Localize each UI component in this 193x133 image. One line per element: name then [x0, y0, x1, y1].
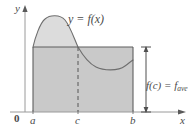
- origin-label: 0: [14, 113, 20, 124]
- y-axis-arrowhead: [22, 5, 27, 12]
- x-axis-label: x: [180, 115, 185, 126]
- average-value-label: f(c) = fave: [146, 80, 188, 92]
- x-tick-label-c: c: [75, 115, 80, 126]
- curve-equation-label: y = f(x): [68, 13, 104, 25]
- mean-value-theorem-figure: y = f(x) f(c) = fave y x 0 a c b: [0, 0, 193, 133]
- average-value-label-subscript: ave: [177, 84, 187, 93]
- average-value-label-main: f(c) = f: [146, 79, 177, 91]
- y-axis-label: y: [15, 3, 20, 14]
- x-tick-label-b: b: [130, 115, 136, 126]
- average-value-rectangle: [33, 47, 133, 112]
- x-tick-label-a: a: [30, 115, 36, 126]
